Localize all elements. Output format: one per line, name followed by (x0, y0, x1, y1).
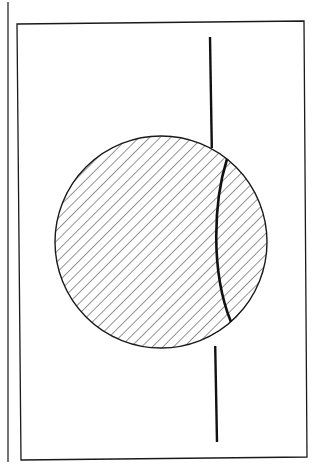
vertical-line-upper (210, 37, 212, 148)
vertical-line-lower (215, 346, 217, 442)
hatched-circle (55, 136, 267, 348)
diagram-figure (0, 0, 325, 475)
